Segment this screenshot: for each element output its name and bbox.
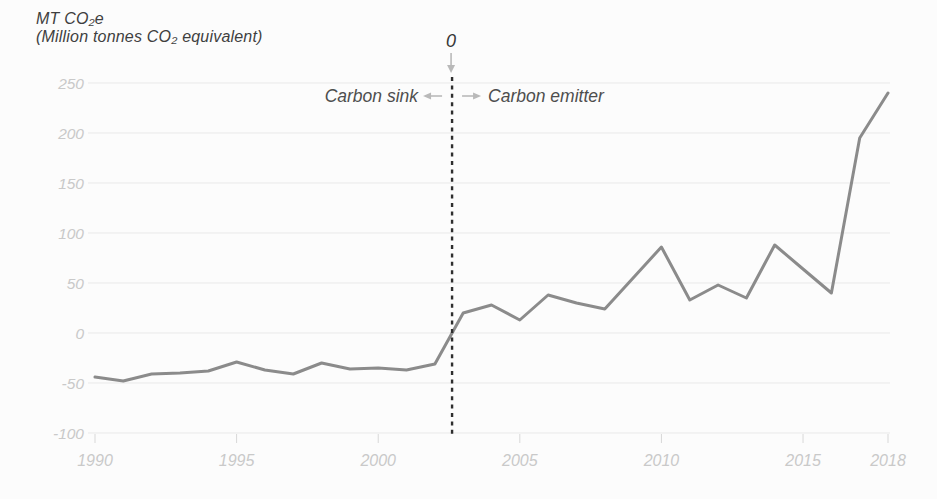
data-line [95, 93, 888, 381]
right-arrowhead-icon [473, 92, 481, 99]
x-tick-label: 1995 [219, 452, 255, 469]
y-tick-label: 250 [57, 75, 84, 92]
line-chart: 250200150100500-50-100199019952000200520… [0, 0, 937, 499]
down-arrowhead-icon [447, 65, 455, 73]
x-tick-label: 2005 [501, 452, 538, 469]
y-tick-label: -50 [62, 375, 85, 392]
x-tick-label: 1990 [77, 452, 113, 469]
x-tick-label: 2015 [784, 452, 821, 469]
carbon-sink-label: Carbon sink [325, 86, 420, 106]
x-tick-label: 2010 [643, 452, 680, 469]
y-tick-label: -100 [53, 425, 84, 442]
x-tick-label: 2000 [359, 452, 396, 469]
y-tick-label: 150 [58, 175, 84, 192]
chart-figure: MT CO₂e (Million tonnes CO₂ equivalent) … [0, 0, 937, 499]
y-tick-label: 100 [58, 225, 84, 242]
zero-annotation: 0 [446, 31, 456, 51]
left-arrowhead-icon [423, 92, 431, 99]
y-tick-label: 50 [67, 275, 85, 292]
x-tick-label: 2018 [869, 452, 906, 469]
y-tick-label: 200 [57, 125, 84, 142]
y-tick-label: 0 [75, 325, 84, 342]
carbon-emitter-label: Carbon emitter [488, 86, 605, 106]
